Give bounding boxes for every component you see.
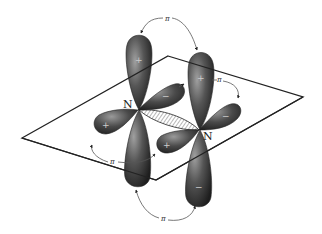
n2-lower-sign: − (195, 182, 203, 192)
pi-bottom-arc-left (136, 190, 159, 218)
n1-lower-lobe (125, 110, 151, 187)
pi-right-label: π (216, 76, 222, 84)
pi-left-arc-up (92, 145, 108, 162)
pi-top-arc-left (141, 18, 163, 33)
atom-label-n1: N (123, 98, 133, 111)
n2-right-sign: − (222, 111, 230, 121)
n1-upper-sign: + (135, 55, 143, 65)
sigma-bond-overlap (139, 110, 199, 130)
pi-left-label: π (109, 158, 115, 166)
atom-label-n2: N (203, 130, 213, 143)
nn-pi-orbital-diagram: + + + + − − − N N π π π π (0, 0, 322, 234)
pi-bottom-arc-right (168, 206, 195, 220)
n1-left-sign: + (102, 120, 110, 130)
n2-left-sign: + (163, 140, 171, 150)
n2-upper-sign: + (197, 73, 205, 83)
pi-top-label: π (164, 15, 170, 23)
pi-right-arc (223, 81, 238, 98)
pi-bottom-label: π (160, 215, 166, 223)
n1-right-sign: − (162, 91, 170, 101)
pi-top-arc-right (172, 18, 197, 50)
